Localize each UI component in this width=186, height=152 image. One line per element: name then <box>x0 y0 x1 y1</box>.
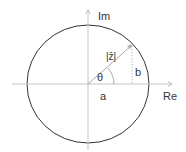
opposite-side-label: b <box>135 66 141 78</box>
angle-arc <box>108 68 114 84</box>
angle-label: θ <box>97 71 103 83</box>
magnitude-label: |z̄| <box>106 51 116 62</box>
adjacent-side-label: a <box>100 90 107 102</box>
complex-plane-diagram: Im Re |z̄| b θ a <box>0 0 186 152</box>
real-axis-label: Re <box>163 90 177 102</box>
imaginary-axis-label: Im <box>98 10 110 22</box>
